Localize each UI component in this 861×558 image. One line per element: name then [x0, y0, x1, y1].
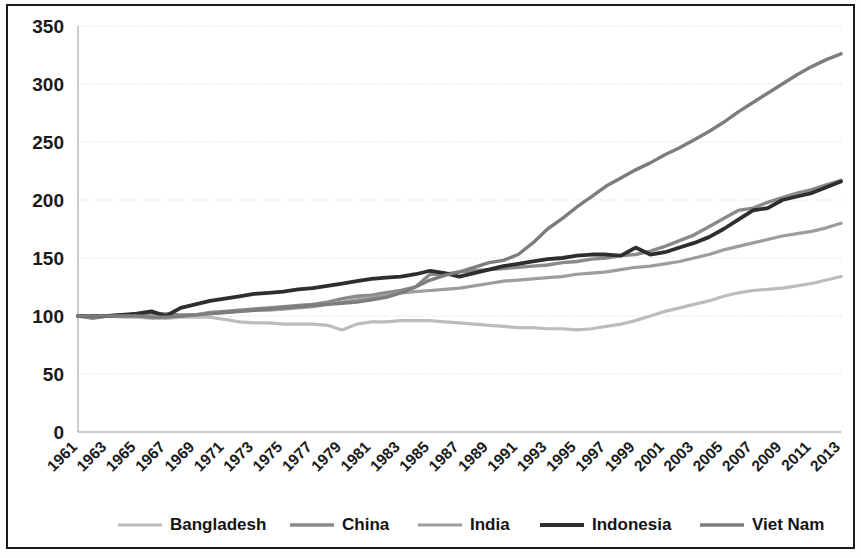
chart-legend: BangladeshChinaIndiaIndonesiaViet Nam — [118, 515, 824, 534]
x-tick-label: 1967 — [132, 438, 168, 474]
y-tick-label: 0 — [53, 422, 64, 443]
legend-label-bangladesh: Bangladesh — [170, 515, 266, 534]
x-tick-label: 2005 — [689, 438, 726, 475]
y-tick-label: 200 — [32, 190, 64, 211]
x-tick-label: 1969 — [161, 438, 198, 475]
y-tick-label: 100 — [32, 306, 64, 327]
x-tick-label: 1997 — [572, 438, 608, 474]
x-tick-label: 1999 — [601, 438, 638, 475]
line-chart: 050100150200250300350 196119631965196719… — [0, 0, 861, 558]
x-tick-label: 2013 — [807, 438, 844, 475]
legend-label-india: India — [470, 515, 510, 534]
chart-figure: 050100150200250300350 196119631965196719… — [0, 0, 861, 558]
y-tick-label: 300 — [32, 74, 64, 95]
x-tick-label: 2007 — [719, 438, 755, 474]
x-tick-label: 2009 — [748, 438, 785, 475]
x-tick-label: 1989 — [455, 438, 492, 475]
legend-label-indonesia: Indonesia — [592, 515, 672, 534]
y-axis-tick-labels: 050100150200250300350 — [32, 16, 64, 443]
series-group — [78, 54, 841, 330]
x-tick-label: 1965 — [102, 438, 139, 475]
x-tick-label: 2003 — [660, 438, 697, 475]
y-tick-label: 250 — [32, 132, 64, 153]
y-tick-label: 50 — [43, 364, 64, 385]
x-tick-label: 1977 — [278, 438, 314, 474]
x-tick-label: 1987 — [425, 438, 461, 474]
x-tick-label: 2001 — [631, 438, 668, 475]
legend-label-china: China — [342, 515, 390, 534]
x-tick-label: 1971 — [190, 438, 227, 475]
x-tick-label: 1973 — [220, 438, 257, 475]
y-tick-label: 150 — [32, 248, 64, 269]
x-tick-label: 1993 — [513, 438, 550, 475]
legend-label-viet-nam: Viet Nam — [752, 515, 824, 534]
x-tick-label: 1963 — [73, 438, 110, 475]
x-tick-label: 1975 — [249, 438, 286, 475]
y-tick-label: 350 — [32, 16, 64, 37]
x-tick-label: 1985 — [396, 438, 433, 475]
x-tick-label: 1995 — [543, 438, 580, 475]
x-tick-label: 1991 — [484, 438, 521, 475]
x-tick-label: 1981 — [337, 438, 374, 475]
x-tick-label: 1983 — [367, 438, 404, 475]
x-axis-tick-labels: 1961196319651967196919711973197519771979… — [44, 438, 844, 475]
x-tick-label: 2011 — [778, 438, 814, 474]
x-tick-label: 1961 — [44, 438, 81, 475]
x-tick-label: 1979 — [308, 438, 345, 475]
